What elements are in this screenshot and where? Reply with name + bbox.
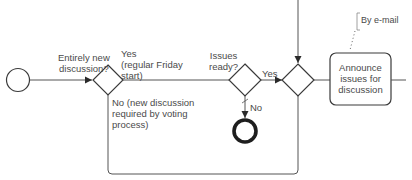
yes-line-1: Yes xyxy=(121,48,183,59)
yes-line-3: start) xyxy=(121,70,183,81)
no-line-3: process) xyxy=(112,119,194,130)
issues-ready-yes-label: Yes xyxy=(262,68,278,79)
task-line-1: Announce xyxy=(331,62,390,73)
end-event-circle[interactable] xyxy=(234,120,256,142)
gateway-question-label: Entirely new discussion? xyxy=(58,52,110,74)
task-label: Announce issues for discussion xyxy=(331,62,390,95)
question-line-2: discussion? xyxy=(58,63,110,74)
yes-line-2: (regular Friday xyxy=(121,59,183,70)
annotation-bracket xyxy=(357,13,360,30)
no-line-2: required by voting xyxy=(112,108,194,119)
task-line-3: discussion xyxy=(331,84,390,95)
task-line-2: issues for xyxy=(331,73,390,84)
issues-line-2: ready? xyxy=(209,61,238,72)
yes-branch-label: Yes (regular Friday start) xyxy=(121,48,183,81)
issues-ready-question-label: Issues ready? xyxy=(209,50,238,72)
annotation-text: By e-mail xyxy=(361,15,399,26)
no-line-1: No (new discussion xyxy=(112,97,194,108)
issues-ready-no-label: No xyxy=(250,102,262,113)
question-line-1: Entirely new xyxy=(58,52,110,63)
start-event-circle[interactable] xyxy=(7,69,30,92)
annotation-association xyxy=(350,31,355,50)
issues-line-1: Issues xyxy=(209,50,238,61)
no-branch-label: No (new discussion required by voting pr… xyxy=(112,97,194,130)
gateway-merge[interactable] xyxy=(282,64,314,96)
